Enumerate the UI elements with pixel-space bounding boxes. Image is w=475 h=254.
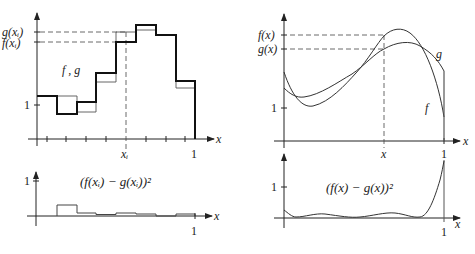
right-top-chart [274,14,460,148]
x-one-label: 1 [441,147,447,161]
left-top-chart [28,13,214,150]
y-one-label: 1 [271,101,277,115]
x-one-label: 1 [191,224,197,238]
squared-diff-title: (f(x) − g(x))² [326,180,394,195]
x-axis-label: x [462,134,469,148]
x-one-label: 1 [191,147,197,161]
figure: g(xᵢ) f(xᵢ) 1 f , g xᵢ 1 x 1 (f(xᵢ) − g(… [0,0,475,254]
g-curve-label: g [436,47,442,61]
squared-diff-steps [57,205,195,216]
x-one-label: 1 [441,225,447,239]
xi-label: xᵢ [120,147,128,161]
f-curve [284,29,444,117]
y-one-label: 1 [271,180,277,194]
fg-label: f , g [62,63,80,77]
g-curve [284,42,444,97]
x-point-label: x [380,147,387,161]
y-one-label: 1 [24,98,30,112]
f-curve-label: f [425,101,430,115]
squared-diff-title: (f(xᵢ) − g(xᵢ))² [80,174,152,189]
x-axis-label: x [213,209,220,223]
guide-lines [40,32,126,150]
x-axis-label: x [454,217,461,231]
f-x-label: f(x) [258,28,275,42]
x-axis-label: x [215,132,222,146]
f-xi-label: f(xᵢ) [2,36,21,50]
g-x-label: g(x) [258,42,277,56]
y-one-label: 1 [24,174,30,188]
